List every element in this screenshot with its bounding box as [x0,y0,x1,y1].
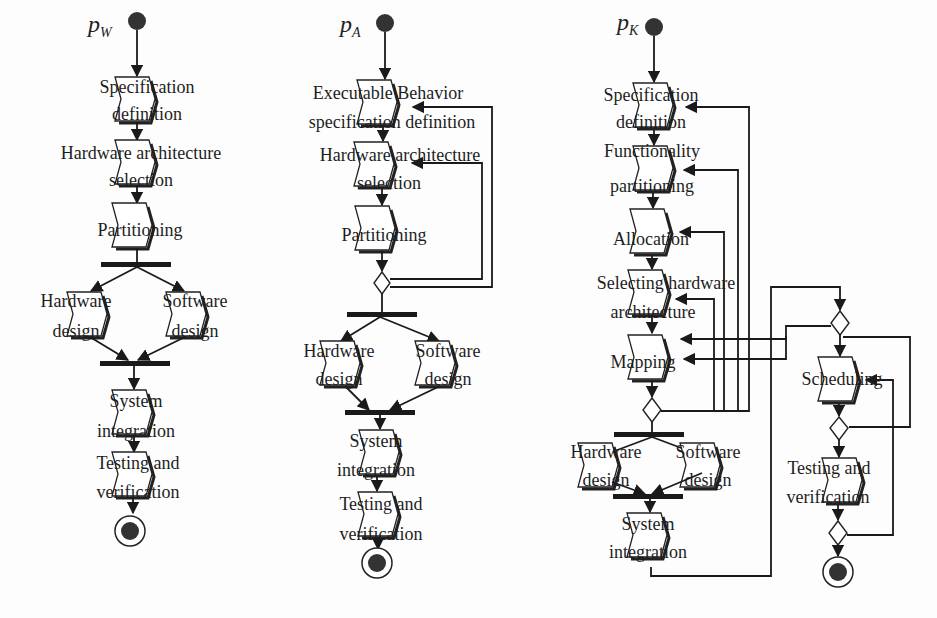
fork-bar [101,262,171,267]
fork-bar [347,312,417,317]
svg-text:Selecting hardware: Selecting hardware [597,273,735,293]
process-label-pa: pA [338,11,361,40]
initial-node-icon [376,14,394,32]
svg-text:System: System [109,391,162,411]
svg-text:design: design [685,470,732,490]
svg-text:integration: integration [97,421,175,441]
fork-bar [614,432,684,437]
svg-text:Allocation: Allocation [613,229,689,249]
svg-text:Software: Software [416,341,481,361]
svg-text:partitioning: partitioning [610,176,694,196]
svg-text:definition: definition [112,104,182,124]
svg-text:System: System [349,431,402,451]
diagram-canvas: pW Specification definition Hardware arc… [0,0,937,618]
process-label-pw: pW [86,11,113,40]
svg-text:design: design [316,369,363,389]
svg-text:definition: definition [616,112,686,132]
svg-text:Executable Behavior: Executable Behavior [313,83,463,103]
svg-text:design: design [425,369,472,389]
svg-text:specification definition: specification definition [309,112,475,132]
svg-text:Partitioning: Partitioning [98,220,183,240]
activity-label: Specification [100,77,195,97]
svg-text:Functionality: Functionality [604,141,700,161]
svg-text:Hardware: Hardware [304,341,375,361]
svg-text:Hardware architecture: Hardware architecture [61,143,221,163]
svg-text:Hardware: Hardware [571,442,642,462]
svg-text:design: design [583,470,630,490]
svg-text:Specification: Specification [604,85,699,105]
join-bar [100,361,170,366]
svg-text:Mapping: Mapping [611,352,676,372]
svg-text:Partitioning: Partitioning [342,225,427,245]
svg-text:Software: Software [163,291,228,311]
svg-text:architecture: architecture [611,302,696,322]
svg-text:integration: integration [609,542,687,562]
join-bar [345,410,415,415]
svg-text:Software: Software [676,442,741,462]
svg-text:Hardware: Hardware [41,291,112,311]
svg-text:Testing and: Testing and [96,453,179,473]
process-diagram-pk: pK [571,9,910,587]
svg-text:selection: selection [357,173,421,193]
decision-diamond-icon [830,417,848,440]
process-diagram-pa: pA Executable Behavior specification def… [304,11,492,578]
process-diagram-pw: pW Specification definition Hardware arc… [41,11,228,546]
decision-diamond-icon [829,521,847,545]
decision-diamond-icon [643,398,661,422]
svg-text:Testing and: Testing and [787,458,870,478]
svg-text:System: System [621,514,674,534]
decision-diamond-icon [831,311,849,335]
svg-text:design: design [172,321,219,341]
svg-text:integration: integration [337,460,415,480]
initial-node-icon [645,18,663,36]
svg-text:Scheduling: Scheduling [802,369,883,389]
join-bar [613,494,683,499]
decision-diamond-icon [374,272,390,294]
svg-text:selection: selection [109,170,173,190]
svg-text:Testing and: Testing and [339,494,422,514]
svg-text:verification: verification [340,524,423,544]
svg-text:verification: verification [787,487,870,507]
process-label-pk: pK [615,9,639,38]
svg-text:verification: verification [97,482,180,502]
svg-text:design: design [53,321,100,341]
initial-node-icon [128,12,146,30]
svg-text:Hardware architecture: Hardware architecture [320,145,480,165]
